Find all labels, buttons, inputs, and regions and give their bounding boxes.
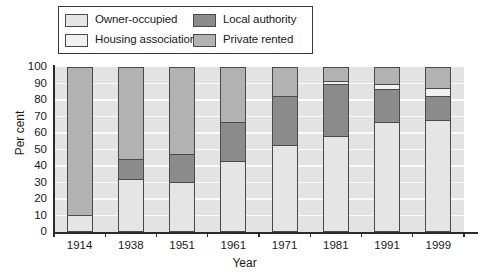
x-tick-1961 — [258, 232, 259, 237]
bar-1938 — [118, 67, 144, 232]
y-tick-label-20: 20 — [23, 193, 47, 205]
bar-1961 — [220, 67, 246, 232]
legend-swatch-owner_occupied — [65, 14, 88, 27]
gridline-20 — [54, 198, 464, 200]
legend-swatch-private_rented — [193, 34, 216, 47]
legend-item-local_authority: Local authority — [193, 10, 308, 30]
x-tick-label-1951: 1951 — [159, 240, 205, 252]
bar-segment-1914-owner-occupied — [68, 215, 92, 231]
legend-swatch-housing_association — [65, 34, 88, 47]
x-tick-1914 — [105, 232, 106, 237]
bar-segment-1961-owner-occupied — [221, 161, 245, 231]
gridline-80 — [54, 99, 464, 101]
x-tick-label-1971: 1971 — [262, 240, 308, 252]
x-tick-1999 — [463, 232, 464, 237]
y-tick-label-0: 0 — [23, 226, 47, 238]
gridline-50 — [54, 149, 464, 151]
y-tick-label-10: 10 — [23, 210, 47, 222]
bar-segment-1991-private-rented — [375, 68, 399, 84]
bar-segment-1999-local-authority — [426, 96, 450, 120]
bar-1981 — [323, 67, 349, 232]
bar-segment-1991-owner-occupied — [375, 122, 399, 231]
bar-1951 — [169, 67, 195, 232]
plot-area — [54, 67, 464, 232]
x-tick-1951 — [207, 232, 208, 237]
bar-segment-1999-owner-occupied — [426, 120, 450, 231]
y-tick-label-30: 30 — [23, 177, 47, 189]
bar-1914 — [67, 67, 93, 232]
x-tick-label-1938: 1938 — [108, 240, 154, 252]
gridline-40 — [54, 165, 464, 167]
x-tick-label-1961: 1961 — [210, 240, 256, 252]
bar-segment-1981-private-rented — [324, 68, 348, 81]
x-axis-line — [53, 232, 478, 234]
legend-label-housing_association: Housing association — [95, 34, 196, 46]
x-tick-label-1914: 1914 — [57, 240, 103, 252]
gridline-10 — [54, 215, 464, 217]
bar-segment-1951-private-rented — [170, 68, 194, 154]
bar-segment-1938-owner-occupied — [119, 179, 143, 231]
x-tick-1991 — [412, 232, 413, 237]
bar-1999 — [425, 67, 451, 232]
bar-segment-1938-private-rented — [119, 68, 143, 159]
bar-segment-1951-local-authority — [170, 154, 194, 182]
legend-item-private_rented: Private rented — [193, 30, 308, 50]
legend-label-local_authority: Local authority — [223, 14, 296, 26]
gridline-90 — [54, 83, 464, 85]
x-tick-origin — [53, 232, 54, 237]
bar-segment-1981-local-authority — [324, 84, 348, 136]
bar-segment-1961-local-authority — [221, 122, 245, 161]
y-tick-label-100: 100 — [23, 61, 47, 73]
gridline-70 — [54, 116, 464, 118]
bar-segment-1914-private-rented — [68, 68, 92, 215]
x-axis-label: Year — [0, 256, 489, 270]
bar-segment-1971-private-rented — [273, 68, 297, 96]
y-axis-label: Per cent — [13, 93, 27, 173]
gridline-30 — [54, 182, 464, 184]
y-tick-label-90: 90 — [23, 78, 47, 90]
bar-segment-1999-private-rented — [426, 68, 450, 88]
bar-1971 — [272, 67, 298, 232]
bar-segment-1999-housing-association — [426, 88, 450, 96]
x-tick-label-1991: 1991 — [364, 240, 410, 252]
legend-label-private_rented: Private rented — [223, 34, 293, 46]
legend-item-housing_association: Housing association — [65, 30, 193, 50]
gridline-60 — [54, 132, 464, 134]
x-tick-label-1981: 1981 — [313, 240, 359, 252]
x-tick-1971 — [310, 232, 311, 237]
x-tick-1981 — [361, 232, 362, 237]
x-tick-1938 — [156, 232, 157, 237]
legend-label-owner_occupied: Owner-occupied — [95, 14, 177, 26]
chart-legend: Owner-occupiedLocal authorityHousing ass… — [58, 6, 313, 54]
x-tick-label-1999: 1999 — [415, 240, 461, 252]
bar-segment-1981-owner-occupied — [324, 136, 348, 231]
bar-segment-1951-owner-occupied — [170, 182, 194, 231]
bar-segment-1938-local-authority — [119, 159, 143, 179]
bar-segment-1991-local-authority — [375, 89, 399, 122]
bar-segment-1971-local-authority — [273, 96, 297, 145]
legend-swatch-local_authority — [193, 14, 216, 27]
y-axis-line — [53, 65, 55, 234]
legend-item-owner_occupied: Owner-occupied — [65, 10, 193, 30]
bar-segment-1961-private-rented — [221, 68, 245, 122]
bar-segment-1971-owner-occupied — [273, 145, 297, 231]
bar-1991 — [374, 67, 400, 232]
